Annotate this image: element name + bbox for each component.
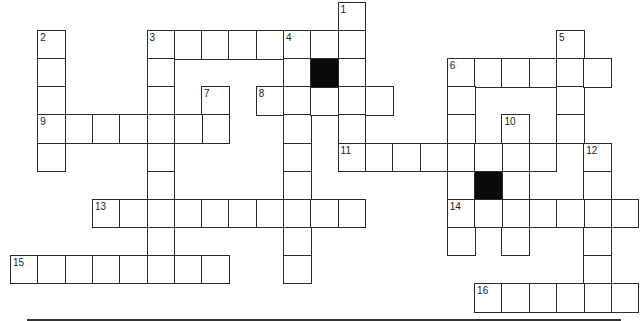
crossword-cell[interactable] — [65, 255, 94, 285]
crossword-cell[interactable] — [92, 114, 121, 144]
crossword-cell[interactable]: 3 — [147, 30, 176, 60]
crossword-cell[interactable] — [201, 255, 230, 285]
crossword-cell[interactable] — [338, 114, 367, 144]
crossword-cell[interactable] — [501, 283, 530, 313]
crossword-cell[interactable] — [501, 171, 530, 201]
crossword-cell[interactable] — [529, 58, 558, 88]
crossword-cell[interactable] — [556, 114, 585, 144]
crossword-cell[interactable] — [447, 143, 476, 173]
crossword-cell[interactable] — [256, 199, 285, 229]
crossword-cell[interactable] — [147, 114, 176, 144]
crossword-cell[interactable] — [529, 199, 558, 229]
crossword-cell[interactable]: 2 — [37, 30, 66, 60]
clue-number: 7 — [204, 88, 210, 99]
crossword-cell[interactable]: 5 — [556, 30, 585, 60]
crossword-cell[interactable] — [283, 143, 312, 173]
crossword-cell[interactable] — [283, 227, 312, 257]
crossword-cell[interactable] — [256, 30, 285, 60]
crossword-cell[interactable] — [583, 283, 612, 313]
crossword-cell[interactable] — [174, 199, 203, 229]
crossword-cell[interactable] — [119, 255, 148, 285]
crossword-cell[interactable] — [310, 199, 339, 229]
crossword-cell[interactable] — [283, 58, 312, 88]
crossword-cell[interactable] — [501, 199, 530, 229]
crossword-cell[interactable]: 10 — [501, 114, 530, 144]
crossword-cell[interactable]: 12 — [583, 143, 612, 173]
crossword-cell[interactable]: 1 — [338, 2, 367, 32]
crossword-cell[interactable] — [37, 86, 66, 116]
crossword-cell[interactable] — [501, 227, 530, 257]
crossword-cell[interactable] — [147, 227, 176, 257]
crossword-cell[interactable] — [529, 283, 558, 313]
crossword-cell[interactable] — [583, 255, 612, 285]
crossword-cell[interactable] — [283, 114, 312, 144]
crossword-cell[interactable] — [583, 227, 612, 257]
crossword-cell[interactable] — [147, 143, 176, 173]
crossword-cell[interactable] — [37, 255, 66, 285]
crossword-cell[interactable] — [201, 114, 230, 144]
crossword-cell[interactable] — [283, 171, 312, 201]
crossword-cell[interactable] — [611, 283, 640, 313]
crossword-cell[interactable] — [338, 199, 367, 229]
crossword-cell[interactable] — [420, 143, 449, 173]
crossword-cell[interactable] — [174, 114, 203, 144]
crossword-cell[interactable] — [201, 30, 230, 60]
crossword-cell[interactable] — [501, 143, 530, 173]
crossword-cell[interactable] — [556, 58, 585, 88]
crossword-cell[interactable] — [447, 86, 476, 116]
crossword-cell[interactable]: 14 — [447, 199, 476, 229]
crossword-cell[interactable]: 6 — [447, 58, 476, 88]
crossword-cell[interactable] — [583, 171, 612, 201]
crossword-cell[interactable] — [474, 58, 503, 88]
crossword-cell[interactable] — [228, 30, 257, 60]
crossword-cell[interactable] — [147, 255, 176, 285]
crossword-cell[interactable] — [147, 58, 176, 88]
crossword-cell[interactable] — [283, 86, 312, 116]
crossword-cell[interactable] — [147, 86, 176, 116]
crossword-cell[interactable]: 13 — [92, 199, 121, 229]
crossword-cell[interactable] — [338, 86, 367, 116]
crossword-cell[interactable] — [119, 199, 148, 229]
crossword-cell[interactable] — [556, 86, 585, 116]
crossword-cell[interactable] — [392, 143, 421, 173]
crossword-cell[interactable] — [474, 199, 503, 229]
crossword-cell[interactable] — [119, 114, 148, 144]
crossword-cell[interactable]: 11 — [338, 143, 367, 173]
crossword-cell[interactable] — [611, 199, 640, 229]
crossword-cell[interactable]: 15 — [10, 255, 39, 285]
crossword-cell[interactable]: 8 — [256, 86, 285, 116]
crossword-cell[interactable] — [338, 58, 367, 88]
crossword-cell[interactable] — [583, 58, 612, 88]
crossword-cell[interactable] — [447, 114, 476, 144]
crossword-cell[interactable] — [174, 255, 203, 285]
crossword-cell[interactable] — [283, 255, 312, 285]
crossword-cell[interactable] — [529, 143, 558, 173]
crossword-cell[interactable]: 7 — [201, 86, 230, 116]
crossword-cell[interactable] — [228, 199, 257, 229]
crossword-cell[interactable] — [147, 171, 176, 201]
crossword-cell[interactable] — [501, 58, 530, 88]
crossword-cell[interactable] — [365, 86, 394, 116]
crossword-cell[interactable] — [556, 199, 585, 229]
crossword-cell[interactable] — [310, 86, 339, 116]
crossword-cell[interactable] — [338, 30, 367, 60]
crossword-cell[interactable] — [447, 171, 476, 201]
crossword-cell[interactable]: 4 — [283, 30, 312, 60]
crossword-cell[interactable] — [474, 143, 503, 173]
crossword-cell[interactable] — [447, 227, 476, 257]
crossword-cell[interactable] — [37, 143, 66, 173]
crossword-cell[interactable] — [147, 199, 176, 229]
crossword-cell[interactable] — [556, 143, 585, 173]
crossword-cell[interactable] — [583, 199, 612, 229]
crossword-cell[interactable] — [92, 255, 121, 285]
crossword-cell[interactable] — [310, 30, 339, 60]
crossword-cell[interactable] — [556, 283, 585, 313]
crossword-cell[interactable] — [283, 199, 312, 229]
crossword-cell[interactable] — [65, 114, 94, 144]
crossword-cell[interactable] — [201, 199, 230, 229]
crossword-cell[interactable]: 16 — [474, 283, 503, 313]
crossword-cell[interactable] — [174, 30, 203, 60]
crossword-cell[interactable] — [37, 58, 66, 88]
crossword-cell[interactable]: 9 — [37, 114, 66, 144]
crossword-cell[interactable] — [365, 143, 394, 173]
